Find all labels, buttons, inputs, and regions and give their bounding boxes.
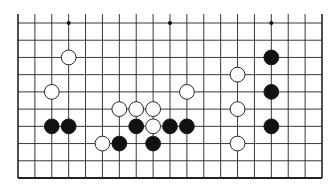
black-stone[interactable]	[129, 119, 144, 134]
white-stone[interactable]	[230, 67, 245, 82]
black-stone[interactable]	[112, 136, 127, 151]
white-stone[interactable]	[112, 102, 127, 117]
star-point	[168, 21, 172, 25]
white-stone[interactable]	[44, 84, 59, 99]
black-stone[interactable]	[61, 119, 76, 134]
white-stone[interactable]	[61, 50, 76, 65]
black-stone[interactable]	[179, 119, 194, 134]
white-stone[interactable]	[230, 136, 245, 151]
black-stone[interactable]	[44, 119, 59, 134]
white-stone[interactable]	[179, 84, 194, 99]
black-stone[interactable]	[264, 50, 279, 65]
white-stone[interactable]	[146, 102, 161, 117]
black-stone[interactable]	[264, 84, 279, 99]
go-board[interactable]	[0, 0, 332, 190]
black-stone[interactable]	[163, 119, 178, 134]
black-stone[interactable]	[146, 136, 161, 151]
star-point	[67, 21, 71, 25]
black-stone[interactable]	[264, 119, 279, 134]
star-point	[269, 21, 273, 25]
white-stone[interactable]	[230, 102, 245, 117]
white-stone[interactable]	[146, 119, 161, 134]
white-stone[interactable]	[129, 102, 144, 117]
white-stone[interactable]	[95, 136, 110, 151]
